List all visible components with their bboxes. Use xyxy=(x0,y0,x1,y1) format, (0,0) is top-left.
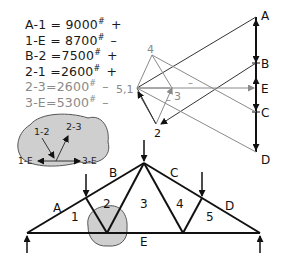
space-label-b: B xyxy=(109,166,117,180)
node-label-3: 3 xyxy=(174,90,181,103)
minus-mark: – xyxy=(188,77,193,88)
panel-label-5: 5 xyxy=(206,210,214,224)
truss-analysis-figure: A-1 = 9000#+ 1-E = 8700#– B-2 =7500#+ 2-… xyxy=(0,0,282,263)
joint-label-1-2: 1-2 xyxy=(34,126,50,137)
panel-label-4: 4 xyxy=(176,197,184,211)
label-b: B xyxy=(261,57,269,71)
space-label-a: A xyxy=(53,201,62,215)
joint-label-3-e: 3-E xyxy=(82,156,97,166)
web-4-5 xyxy=(183,198,202,233)
space-label-c: C xyxy=(170,166,178,180)
force-polygon: A B E C D 4 5,1 3 2 – – xyxy=(116,9,270,167)
node-label-4: 4 xyxy=(147,43,154,56)
panel-label-2: 2 xyxy=(103,197,111,211)
ray-5d xyxy=(137,88,256,152)
space-label-e: E xyxy=(140,235,148,249)
node-label-2: 2 xyxy=(154,127,161,140)
joint-detail: 1-2 2-3 1-E 3-E xyxy=(18,114,109,166)
ray-a1 xyxy=(137,17,256,88)
label-a: A xyxy=(261,9,270,23)
space-label-d: D xyxy=(225,199,234,213)
joint-label-1-e: 1-E xyxy=(18,156,33,166)
node-label-5-1: 5,1 xyxy=(116,83,134,96)
joint-label-2-3: 2-3 xyxy=(66,121,82,132)
label-d: D xyxy=(261,153,270,167)
label-e: E xyxy=(261,82,269,96)
panel-label-1: 1 xyxy=(71,210,79,224)
panel-label-3: 3 xyxy=(140,197,148,211)
minus-mark: – xyxy=(166,94,171,105)
label-c: C xyxy=(261,106,269,120)
diagram-canvas: A B E C D 4 5,1 3 2 – – 1-2 2-3 1-E 3-E xyxy=(0,0,282,263)
